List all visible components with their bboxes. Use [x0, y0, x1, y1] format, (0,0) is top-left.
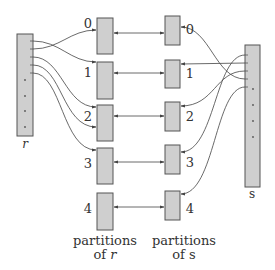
s-partition-label-3: 3	[186, 155, 194, 170]
s-partition-3	[165, 145, 180, 174]
s-partition-1	[165, 60, 180, 88]
relation-r-label: r	[22, 137, 29, 151]
s-partition-label-1: 1	[186, 66, 194, 81]
partitions-of-r-caption-line1: partitions	[73, 233, 137, 248]
partitions-of-r: 0 1 2 3 4 partitions of r	[73, 16, 137, 262]
r-partition-label-2: 2	[84, 109, 92, 124]
partitioned-hash-join-diagram: r s 0 1 2 3 4 partitions of r	[0, 0, 275, 270]
r-partition-0	[97, 18, 113, 54]
r-partition-label-4: 4	[84, 201, 92, 216]
partitions-of-r-caption-line2: of r	[94, 247, 118, 262]
partitions-of-s-caption-line1: partitions	[152, 233, 216, 248]
r-partition-3	[97, 148, 113, 184]
s-partition-label-0: 0	[186, 22, 194, 37]
s-partition-4	[165, 191, 180, 220]
s-partition-0	[165, 16, 180, 45]
partitions-of-s-caption-line2: of s	[172, 247, 195, 262]
s-edge-tuple4-to-p4	[181, 87, 245, 194]
relation-r: r	[17, 34, 33, 151]
r-partition-label-0: 0	[84, 16, 92, 31]
r-hash-edges	[33, 30, 96, 150]
r-partition-label-1: 1	[84, 65, 92, 80]
relation-s: s	[245, 45, 260, 201]
r-partition-label-3: 3	[84, 156, 92, 171]
partitions-of-s: 0 1 2 3 4 partitions of s	[152, 16, 216, 262]
r-edge-tuple1-to-p0	[33, 30, 96, 49]
s-partition-label-2: 2	[186, 109, 194, 124]
s-edge-tuple1-to-p1	[181, 63, 245, 64]
relation-s-label: s	[249, 187, 255, 201]
r-partition-4	[97, 193, 113, 230]
s-partition-label-4: 4	[186, 201, 194, 216]
r-partition-2	[97, 105, 113, 141]
partition-pair-arrows	[114, 33, 164, 207]
s-partition-2	[165, 102, 180, 131]
r-partition-1	[97, 62, 113, 99]
